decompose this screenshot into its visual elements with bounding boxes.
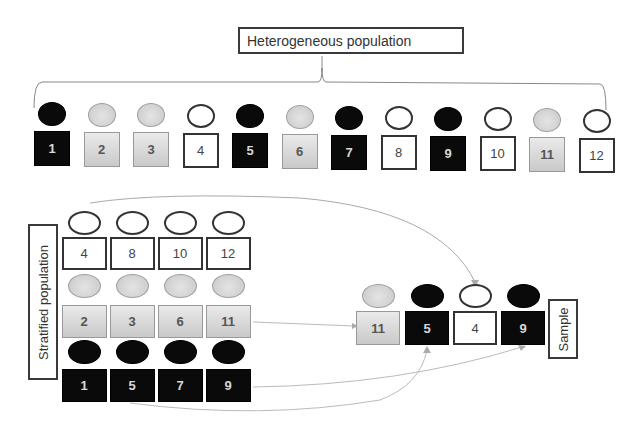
unit-5: 5 bbox=[232, 133, 268, 168]
gray-circle-icon bbox=[286, 105, 314, 129]
unit-4: 4 bbox=[62, 237, 107, 270]
unit-11: 11 bbox=[206, 305, 251, 338]
unit-5: 5 bbox=[110, 369, 155, 402]
sample-label-text: Sample bbox=[556, 307, 571, 351]
white-circle-icon bbox=[212, 211, 245, 235]
unit-9: 9 bbox=[430, 136, 466, 171]
black-circle-icon bbox=[434, 107, 462, 131]
unit-12: 12 bbox=[579, 138, 615, 173]
unit-2: 2 bbox=[84, 132, 120, 167]
gray-circle-icon bbox=[68, 274, 101, 298]
white-circle-icon bbox=[484, 107, 512, 131]
black-circle-icon bbox=[507, 284, 540, 308]
gray-circle-icon bbox=[212, 274, 245, 298]
unit-3: 3 bbox=[110, 305, 155, 338]
unit-10: 10 bbox=[480, 136, 516, 171]
gray-circle-icon bbox=[88, 103, 116, 127]
sample-label: Sample bbox=[548, 299, 578, 359]
black-circle-icon bbox=[335, 106, 363, 130]
heterogeneous-population-title: Heterogeneous population bbox=[238, 27, 464, 54]
unit-3: 3 bbox=[133, 132, 169, 167]
white-circle-icon bbox=[583, 109, 611, 133]
unit-7: 7 bbox=[331, 135, 367, 170]
white-circle-icon bbox=[116, 211, 149, 235]
white-circle-icon bbox=[385, 106, 413, 130]
black-circle-icon bbox=[38, 102, 66, 126]
unit-1: 1 bbox=[62, 369, 107, 402]
unit-2: 2 bbox=[62, 305, 107, 338]
white-circle-icon bbox=[164, 211, 197, 235]
unit-7: 7 bbox=[158, 369, 203, 402]
gray-circle-icon bbox=[362, 284, 395, 308]
stratified-label-text: Stratified population bbox=[36, 245, 51, 360]
black-circle-icon bbox=[116, 340, 149, 364]
unit-6: 6 bbox=[158, 305, 203, 338]
gray-circle-icon bbox=[116, 274, 149, 298]
unit-8: 8 bbox=[110, 237, 155, 270]
black-circle-icon bbox=[68, 340, 101, 364]
white-circle-icon bbox=[68, 211, 101, 235]
unit-4: 4 bbox=[183, 133, 219, 168]
white-circle-icon bbox=[459, 284, 492, 308]
title-label: Heterogeneous population bbox=[247, 33, 411, 49]
unit-10: 10 bbox=[158, 237, 203, 270]
unit-5: 5 bbox=[405, 311, 449, 345]
black-circle-icon bbox=[411, 284, 444, 308]
unit-9: 9 bbox=[501, 311, 545, 345]
unit-9: 9 bbox=[206, 369, 251, 402]
unit-4: 4 bbox=[453, 311, 497, 345]
black-circle-icon bbox=[164, 340, 197, 364]
unit-11: 11 bbox=[529, 137, 565, 172]
unit-8: 8 bbox=[381, 135, 417, 170]
gray-circle-icon bbox=[164, 274, 197, 298]
unit-11: 11 bbox=[356, 311, 400, 345]
white-circle-icon bbox=[187, 104, 215, 128]
unit-6: 6 bbox=[282, 134, 318, 169]
gray-circle-icon bbox=[533, 108, 561, 132]
unit-1: 1 bbox=[34, 131, 70, 166]
unit-12: 12 bbox=[206, 237, 251, 270]
stratified-population-label: Stratified population bbox=[28, 224, 58, 380]
black-circle-icon bbox=[212, 340, 245, 364]
